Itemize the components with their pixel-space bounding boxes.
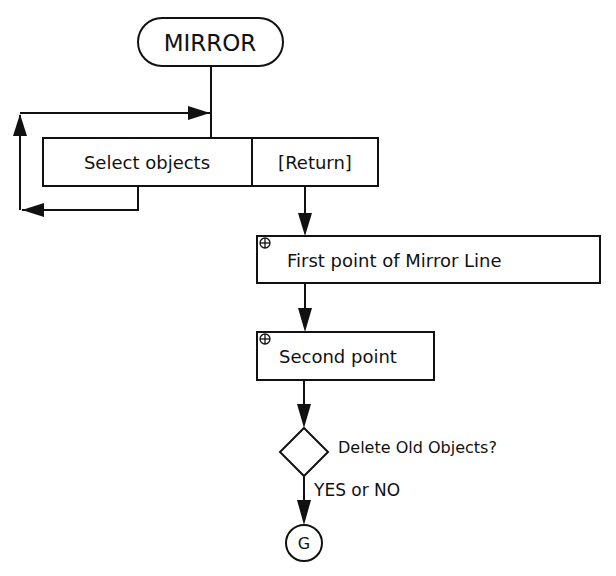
decision-node: Delete Old Objects? (280, 428, 497, 476)
end-connector-node: G (286, 525, 322, 561)
crosshair-point-icon (260, 238, 270, 248)
arrow-left-icon (22, 203, 44, 217)
decision-answer-label: YES or NO (313, 480, 400, 500)
second-point-node: Second point (257, 332, 434, 380)
select-objects-label: Select objects (84, 152, 210, 173)
arrow-down-icon (297, 404, 311, 428)
return-label: [Return] (278, 152, 352, 173)
start-label: MIRROR (164, 30, 257, 56)
decision-label: Delete Old Objects? (338, 438, 497, 457)
arrow-down-icon (298, 213, 312, 236)
first-point-node: First point of Mirror Line (257, 236, 600, 283)
start-node: MIRROR (138, 18, 283, 66)
arrow-down-icon (298, 308, 312, 332)
end-label: G (298, 534, 310, 553)
select-objects-node: Select objects [Return] (43, 138, 378, 186)
second-point-label: Second point (279, 346, 397, 367)
arrow-down-icon (297, 500, 311, 525)
crosshair-point-icon (260, 334, 270, 344)
mirror-flowchart: MIRROR Select objects [Return] First poi… (0, 0, 616, 576)
arrow-right-icon (188, 106, 210, 120)
first-point-label: First point of Mirror Line (287, 250, 502, 271)
arrow-up-icon (13, 114, 27, 136)
